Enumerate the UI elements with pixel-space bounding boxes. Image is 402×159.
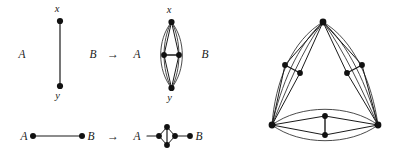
vertex-corner-bottom-left <box>269 122 276 129</box>
vertex-a <box>30 133 36 139</box>
vertex-corner-top <box>320 19 327 26</box>
label-vertex-x: x <box>166 4 172 15</box>
label-endpoint-b-bottom-left: B <box>87 130 94 142</box>
vertex-diamond-top <box>164 124 170 130</box>
edge-top-to-left-mid-b <box>300 22 323 73</box>
label-side-a-top-left: A <box>17 48 26 60</box>
vertex-corner-bottom-right <box>375 122 382 129</box>
edge-top-to-left-mid-a <box>285 22 323 65</box>
label-endpoint-a-bottom-left: A <box>19 130 28 142</box>
edge-br-to-bottom-mid-top <box>325 116 378 125</box>
vertex-bottom-lens-upper <box>322 113 328 119</box>
vertex-diamond-left <box>156 133 162 139</box>
vertex-right-lens-lower <box>344 70 350 76</box>
vertex-mid-right <box>176 52 182 58</box>
panel-right-composite <box>269 19 382 141</box>
edge-bl-to-left-mid-a <box>272 65 285 125</box>
vertex-y <box>57 83 63 89</box>
edge-top-to-right-mid-b <box>323 22 347 73</box>
vertex-right-lens-upper <box>359 62 365 68</box>
label-endpoint-b-bottom-right: B <box>195 130 202 142</box>
vertex-diamond-right <box>172 133 178 139</box>
vertex-x <box>168 19 174 25</box>
label-side-a-top-right: A <box>132 48 141 60</box>
vertex-y <box>168 85 174 91</box>
vertex-left-lens-upper <box>282 62 288 68</box>
panel-bottom-right-target: A B <box>132 124 202 148</box>
panel-top-left-source: x y A B <box>17 3 96 101</box>
vertex-b <box>79 133 85 139</box>
panel-bottom-left-source: A B <box>19 130 94 142</box>
vertex-mid-left <box>161 52 167 58</box>
label-side-b-top-right: B <box>201 48 208 60</box>
label-vertex-x: x <box>54 3 60 14</box>
label-vertex-y: y <box>166 92 172 103</box>
arrow-bottom: → <box>107 129 119 143</box>
label-side-b-top-left: B <box>89 48 96 60</box>
arrow-top: → <box>107 47 119 61</box>
vertex-x <box>57 18 63 24</box>
vertex-b <box>187 133 193 139</box>
panel-top-right-target: A x y B <box>132 4 208 103</box>
figure-canvas: x y A B → A x y <box>0 0 402 159</box>
edge-bl-to-bottom-mid-top <box>272 116 325 125</box>
vertex-left-lens-lower <box>297 70 303 76</box>
label-endpoint-a-bottom-right: A <box>132 130 141 142</box>
graph-transformation-figure: x y A B → A x y <box>0 0 402 159</box>
vertex-bottom-lens-lower <box>322 132 328 138</box>
edge-top-to-right-mid-a <box>323 22 362 65</box>
label-vertex-y: y <box>54 90 60 101</box>
vertex-diamond-bottom <box>164 142 170 148</box>
